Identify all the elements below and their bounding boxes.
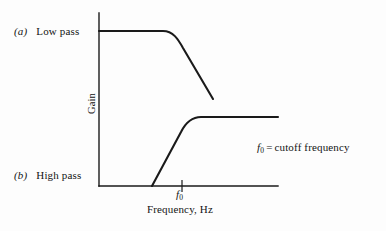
panel-title-low-pass: Low pass: [36, 25, 79, 37]
panel-label-low-pass: (a) Low pass: [14, 25, 79, 37]
y-axis-label: Gain: [86, 87, 97, 121]
f0-tick-subscript: 0: [179, 193, 183, 202]
low-pass-curve: [99, 31, 213, 99]
annotation-equals: =: [264, 141, 274, 153]
filter-response-figure: (a) Low pass (b) High pass Gain f0 Frequ…: [0, 0, 386, 231]
panel-enumerator-a: (a): [14, 25, 27, 37]
panel-label-high-pass: (b) High pass: [14, 169, 81, 181]
annotation-text: cutoff frequency: [274, 141, 349, 153]
panel-enumerator-b: (b): [14, 169, 27, 181]
x-axis-label: Frequency, Hz: [147, 203, 213, 215]
cutoff-frequency-annotation: f0=cutoff frequency: [257, 141, 350, 155]
x-axis-tick-label-f0: f0: [176, 188, 183, 202]
panel-title-high-pass: High pass: [36, 169, 81, 181]
